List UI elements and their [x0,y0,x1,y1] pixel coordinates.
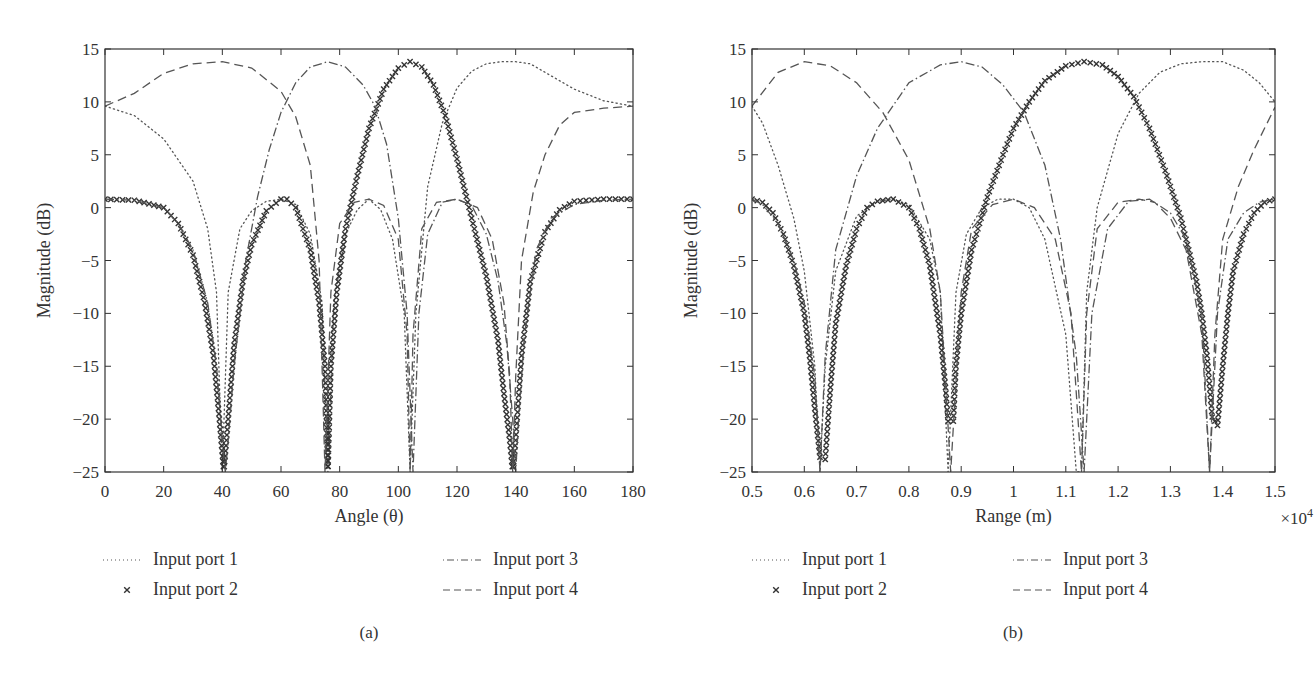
y-tick-label: −10 [72,304,99,323]
y-tick-label: −15 [719,357,746,376]
y-axis-label: Magnitude (dB) [34,203,55,318]
x-tick-label: 1.1 [1055,482,1076,501]
x-tick-label: 40 [214,482,231,501]
y-tick-label: −15 [72,357,99,376]
plot-b-range: 0.50.60.70.80.911.11.21.31.41.5151050−5−… [681,40,1313,642]
series-4-line [105,62,633,472]
y-tick-label: 0 [91,199,100,218]
y-tick-label: −25 [72,463,99,482]
legend-label: Input port 4 [1063,579,1148,599]
y-tick-label: −20 [72,410,99,429]
x-tick-label: 20 [155,482,172,501]
plot-a-angle: 020406080100120140160180151050−5−10−15−2… [34,40,646,642]
legend-label: Input port 2 [802,579,887,599]
x-tick-label: 180 [620,482,646,501]
y-tick-label: −10 [719,304,746,323]
subfigure-caption: (b) [1003,623,1023,642]
legend-label: Input port 1 [153,549,238,569]
x-tick-label: 160 [562,482,588,501]
y-tick-label: 0 [738,199,747,218]
plot-a-series [102,59,635,472]
x-tick-label: 140 [503,482,529,501]
y-tick-label: −5 [728,252,746,271]
y-tick-label: −20 [719,410,746,429]
y-tick-label: 10 [82,93,99,112]
legend-x-marker-icon [124,587,130,593]
y-tick-label: 15 [729,40,746,59]
y-axis-label: Magnitude (dB) [681,203,702,318]
y-tick-label: −5 [81,252,99,271]
x-multiplier-label: ×104 [1280,506,1313,528]
x-tick-label: 1.3 [1160,482,1181,501]
plot-b-series [749,59,1277,472]
series-3-line [105,62,633,472]
x-tick-label: 0.8 [898,482,919,501]
x-tick-label: 100 [386,482,412,501]
series-1-line [105,62,633,472]
x-axis-label: Range (m) [975,506,1051,527]
x-tick-label: 60 [273,482,290,501]
x-tick-label: 0.9 [951,482,972,501]
y-tick-label: 5 [91,146,100,165]
legend-label: Input port 1 [802,549,887,569]
y-tick-label: 5 [738,146,747,165]
figure: 020406080100120140160180151050−5−10−15−2… [0,0,1314,673]
series-2-markers [749,59,1277,462]
y-tick-label: 10 [729,93,746,112]
series-2-markers [102,59,635,469]
x-tick-label: 0.7 [846,482,868,501]
x-tick-label: 1.4 [1212,482,1234,501]
plot-a-axes-box [105,49,633,472]
subfigure-caption: (a) [360,623,379,642]
y-tick-label: −25 [719,463,746,482]
plot-a-legend: Input port 1Input port 2Input port 3Inpu… [103,549,578,599]
x-tick-label: 0.5 [741,482,762,501]
x-tick-label: 1 [1009,482,1018,501]
plot-b-legend: Input port 1Input port 2Input port 3Inpu… [752,549,1148,599]
x-tick-label: 1.5 [1264,482,1285,501]
x-tick-label: 120 [444,482,470,501]
x-tick-label: 0 [101,482,110,501]
legend-label: Input port 3 [1063,549,1148,569]
x-tick-label: 1.2 [1107,482,1128,501]
x-tick-label: 0.6 [794,482,815,501]
legend-label: Input port 2 [153,579,238,599]
x-axis-label: Angle (θ) [334,506,403,527]
legend-label: Input port 3 [493,549,578,569]
x-tick-label: 80 [331,482,348,501]
legend-x-marker-icon [773,587,779,593]
y-tick-label: 15 [82,40,99,59]
legend-label: Input port 4 [493,579,578,599]
